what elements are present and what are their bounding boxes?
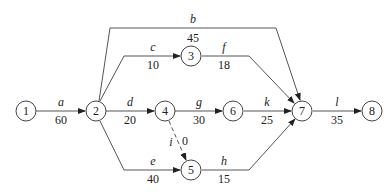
edge-i-dummy: i 0 [169,121,188,160]
edge-e: e 40 [100,121,180,186]
edges: a 60 b 45 c 10 d 20 e 40 f [36,12,361,186]
edge-i-name: i [169,135,172,149]
edge-a-name: a [58,95,64,109]
edge-l: l 35 [313,95,361,127]
edge-g-name: g [196,95,202,109]
node-3-label: 3 [188,49,194,63]
edge-d: d 20 [106,95,154,127]
edge-k: k 25 [244,95,291,127]
edge-b-duration: 45 [187,31,199,45]
edge-b-name: b [190,12,196,26]
node-6: 6 [223,101,243,121]
edge-c: c 10 [100,40,180,101]
node-5-label: 5 [188,163,194,177]
edge-c-duration: 10 [147,58,159,72]
node-7: 7 [292,101,312,121]
node-1: 1 [16,101,36,121]
edge-f-name: f [222,40,227,54]
node-4-label: 4 [162,104,168,118]
edge-e-name: e [150,154,156,168]
edge-h-name: h [221,154,227,168]
edge-f: f 18 [202,40,294,103]
network-diagram: a 60 b 45 c 10 d 20 e 40 f [0,0,391,194]
edge-i-duration: 0 [182,134,188,148]
edge-l-duration: 35 [331,113,343,127]
node-3: 3 [181,46,201,66]
node-1-label: 1 [23,104,29,118]
edge-f-duration: 18 [218,58,230,72]
node-2-label: 2 [93,104,99,118]
edge-a: a 60 [36,95,85,127]
node-4: 4 [155,101,175,121]
edge-g-duration: 30 [193,113,205,127]
edge-h: h 15 [202,119,295,186]
edge-g: g 30 [175,95,222,127]
edge-h-duration: 15 [218,172,230,186]
edge-k-duration: 25 [261,113,273,127]
node-8-label: 8 [369,104,375,118]
node-2: 2 [86,101,106,121]
edge-c-name: c [150,40,156,54]
edge-e-duration: 40 [147,172,159,186]
edge-k-name: k [264,95,270,109]
node-5: 5 [181,160,201,180]
edge-l-name: l [335,95,339,109]
node-8: 8 [362,101,382,121]
edge-d-duration: 20 [124,113,136,127]
node-6-label: 6 [230,104,236,118]
edge-a-duration: 60 [55,113,67,127]
edge-d-name: d [127,95,134,109]
node-7-label: 7 [299,104,305,118]
